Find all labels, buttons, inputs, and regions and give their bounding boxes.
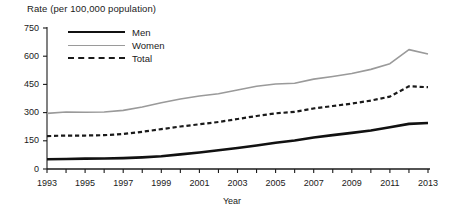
legend-label-total: Total: [132, 53, 152, 64]
x-axis-tick-label: 2005: [259, 179, 293, 188]
series-line-men: [47, 123, 428, 159]
x-axis-tick-label: 2013: [411, 179, 445, 188]
x-axis-tick-label: 1999: [144, 179, 178, 188]
legend-swatch-men-icon: [68, 27, 125, 38]
series-line-total: [47, 86, 428, 136]
legend-label-women: Women: [132, 40, 165, 51]
chart-legend: Men Women Total: [68, 26, 188, 65]
x-axis-tick-label: 2007: [297, 179, 331, 188]
legend-label-men: Men: [132, 27, 150, 38]
y-axis-tick-label: 150: [13, 136, 39, 145]
x-axis-tick-label: 1997: [106, 179, 140, 188]
y-axis-tick-label: 450: [13, 80, 39, 89]
y-axis-tick-label: 750: [13, 24, 39, 33]
x-axis-title-text: Year: [213, 196, 241, 206]
y-axis-tick-label: 600: [13, 52, 39, 61]
x-axis-tick-label: 2011: [373, 179, 407, 188]
y-axis-tick-label: 0: [13, 165, 39, 174]
x-axis-title: Year: [0, 196, 454, 206]
line-chart: Rate (per 100,000 population) 0150300450…: [0, 0, 454, 216]
legend-item-men: Men: [68, 26, 188, 39]
x-axis-tick-label: 2003: [221, 179, 255, 188]
x-axis-tick-label: 1993: [30, 179, 64, 188]
legend-swatch-total-icon: [68, 53, 125, 64]
x-axis-tick-label: 2001: [182, 179, 216, 188]
legend-item-total: Total: [68, 52, 188, 65]
legend-item-women: Women: [68, 39, 188, 52]
x-axis-tick-label: 2009: [335, 179, 369, 188]
y-axis-tick-label: 300: [13, 108, 39, 117]
x-axis-tick-label: 1995: [68, 179, 102, 188]
legend-swatch-women-icon: [68, 40, 125, 51]
